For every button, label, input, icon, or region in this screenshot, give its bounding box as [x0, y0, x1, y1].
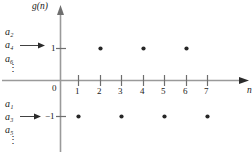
y-axis-arrowhead: [57, 5, 64, 15]
data-point: [205, 114, 209, 118]
x-tick-label-7: 7: [204, 87, 209, 96]
figure-sequence-plot: g(n) n 0 1 −1 1 2 3 4 5 6 7 a₂ a₄ a₆ ⋮ a…: [0, 0, 252, 159]
lower-annotation-arrowhead: [34, 114, 41, 120]
sequence-label-a2: a₂: [5, 27, 13, 37]
x-tick-label-5: 5: [161, 87, 166, 96]
upper-annotation-arrowhead: [38, 43, 45, 49]
x-tick-label-3: 3: [118, 87, 123, 96]
plot-axes-and-points: [0, 0, 252, 159]
x-axis-label: n: [247, 86, 252, 96]
y-axis-label: g(n): [32, 2, 48, 12]
x-tick-label-6: 6: [183, 87, 188, 96]
data-point: [119, 114, 123, 118]
data-point: [184, 46, 188, 50]
sequence-lower-ellipsis: ⋮: [8, 135, 18, 145]
y-tick-label-negative: −1: [45, 112, 55, 121]
x-tick-label-4: 4: [140, 87, 145, 96]
sequence-label-a1: a₁: [5, 99, 13, 109]
sequence-label-a4: a₄: [5, 40, 13, 50]
data-point: [162, 114, 166, 118]
sequence-upper-ellipsis: ⋮: [8, 63, 18, 73]
x-tick-label-2: 2: [97, 87, 102, 96]
x-tick-label-1: 1: [75, 87, 80, 96]
x-axis-arrowhead: [239, 77, 249, 84]
data-point: [141, 46, 145, 50]
data-point: [76, 114, 80, 118]
sequence-label-a3: a₃: [5, 112, 13, 122]
origin-label: 0: [52, 84, 57, 93]
y-tick-label-positive: 1: [51, 44, 56, 53]
data-point: [98, 46, 102, 50]
